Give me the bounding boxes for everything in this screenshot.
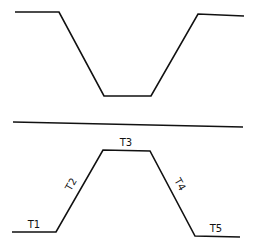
label-t3: T3 <box>119 137 132 148</box>
top-valley-profile <box>15 12 244 96</box>
label-t5: T5 <box>209 223 222 234</box>
bottom-plateau-profile <box>12 150 240 237</box>
diagram-canvas: T1 T2 T3 T4 T5 <box>0 0 253 248</box>
label-t2: T2 <box>63 176 79 193</box>
label-t4: T4 <box>172 175 188 192</box>
divider-line <box>13 122 243 127</box>
label-t1: T1 <box>27 219 40 230</box>
